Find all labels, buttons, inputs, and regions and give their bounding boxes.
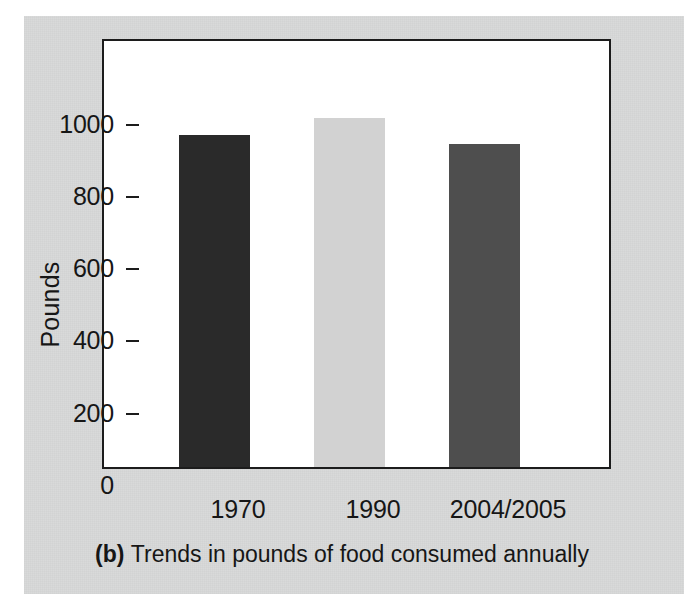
y-axis-tick bbox=[126, 124, 139, 126]
x-axis-tick-label: 2004/2005 bbox=[450, 495, 566, 524]
y-axis-tick-label: 1000 bbox=[59, 111, 114, 136]
y-axis-tick bbox=[126, 340, 139, 342]
x-axis-tick-label: 1990 bbox=[346, 495, 401, 524]
y-axis-title-text: Pounds bbox=[36, 261, 65, 347]
y-axis-tick-label: 200 bbox=[73, 400, 114, 425]
x-axis-tick-label: 1970 bbox=[211, 495, 266, 524]
figure-root: 02004006008001000 Pounds 197019902004/20… bbox=[0, 0, 684, 602]
figure-caption-text: Trends in pounds of food consumed annual… bbox=[131, 541, 589, 567]
y-axis-tick bbox=[126, 268, 139, 270]
y-axis-tick-label: 600 bbox=[73, 256, 114, 281]
figure-caption-tag: (b) bbox=[95, 541, 124, 567]
y-axis-tick-label: 0 bbox=[100, 473, 114, 498]
y-axis-tick bbox=[126, 196, 139, 198]
y-axis-title: Pounds bbox=[30, 224, 70, 384]
figure-caption: (b) Trends in pounds of food consumed an… bbox=[0, 541, 684, 568]
y-axis-tick bbox=[126, 413, 139, 415]
y-axis-tick-label: 800 bbox=[73, 183, 114, 208]
y-axis-tick-label: 400 bbox=[73, 328, 114, 353]
